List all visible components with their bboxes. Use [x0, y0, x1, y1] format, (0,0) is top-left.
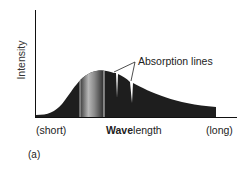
absorption-lines-annotation: Absorption lines: [138, 55, 213, 67]
x-left-label: (short): [36, 124, 66, 136]
x-axis-label-rest: length: [133, 124, 162, 136]
y-axis-label: Intensity: [15, 35, 27, 85]
visible-band: [80, 60, 104, 118]
x-axis-label: Wavelength: [106, 124, 162, 136]
panel-label: (a): [28, 149, 40, 160]
x-right-label: (long): [206, 124, 233, 136]
spectrum-curve: [36, 60, 216, 118]
spectrum-diagram: [0, 0, 252, 170]
x-axis-label-bold: Wave: [106, 124, 133, 136]
